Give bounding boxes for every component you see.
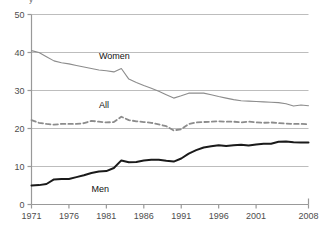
series-label-men: Men	[91, 184, 109, 194]
axis-lines	[32, 15, 309, 205]
data-series	[32, 51, 309, 186]
series-line-men	[32, 141, 309, 185]
y-tick-label-30: 30	[14, 86, 24, 96]
y-tick-label-0: 0	[19, 200, 24, 210]
x-tick-label-1976: 1976	[59, 211, 79, 221]
y-tick-label-20: 20	[14, 124, 24, 134]
x-tick-label-1971: 1971	[21, 211, 41, 221]
y-tick-label-40: 40	[14, 48, 24, 58]
x-tick-label-1991: 1991	[171, 211, 191, 221]
y-axis-tick-labels: 01020304050	[14, 10, 24, 210]
x-tick-label-1981: 1981	[96, 211, 116, 221]
chart-canvas: 01020304050 1971197619811986199119962001…	[0, 0, 322, 231]
series-line-women	[32, 51, 309, 106]
x-axis-tick-labels: 19711976198119861991199620012008	[21, 211, 318, 221]
x-tick-label-1996: 1996	[209, 211, 229, 221]
y-tick-label-10: 10	[14, 162, 24, 172]
line-chart: y 01020304050 19711976198119861991199620…	[0, 0, 322, 231]
x-tick-label-2001: 2001	[246, 211, 266, 221]
series-label-all: All	[99, 100, 109, 110]
series-label-women: Women	[99, 51, 130, 61]
x-tick-label-2008: 2008	[298, 211, 318, 221]
x-tick-label-1986: 1986	[134, 211, 154, 221]
y-tick-label-50: 50	[14, 10, 24, 20]
